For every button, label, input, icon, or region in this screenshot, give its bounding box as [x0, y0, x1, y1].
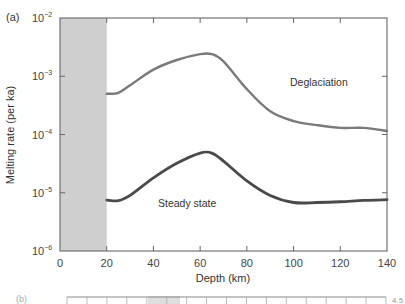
crust-shade	[60, 18, 107, 251]
x-axis: 020406080100120140	[57, 18, 396, 269]
y-tick-label: 10−5	[32, 186, 52, 199]
steady-state-label: Steady state	[158, 197, 217, 209]
panel-b-ticks	[67, 297, 386, 304]
x-tick-label: 0	[57, 257, 63, 269]
y-tick-label: 10−6	[32, 244, 52, 257]
x-tick-label: 120	[331, 257, 349, 269]
panel-label: (a)	[6, 11, 19, 23]
x-tick-label: 100	[284, 257, 302, 269]
x-axis-title: Depth (km)	[196, 272, 250, 284]
shaded-region	[60, 18, 107, 251]
series-deglaciation	[107, 53, 387, 131]
y-tick-label: 10−4	[32, 128, 52, 141]
panel-b-right-label: 4.5	[392, 296, 404, 304]
x-tick-label: 20	[101, 257, 113, 269]
panel-b-strip: (b) 4.5	[16, 294, 404, 304]
y-axis-title: Melting rate (per ka)	[4, 86, 16, 184]
y-tick-label: 10−3	[32, 69, 52, 82]
x-tick-label: 40	[147, 257, 159, 269]
x-tick-label: 60	[194, 257, 206, 269]
series-steady-state	[107, 152, 387, 203]
plot-frame	[60, 18, 387, 251]
x-tick-label: 140	[378, 257, 396, 269]
y-tick-label: 10−2	[32, 11, 52, 24]
panel-b-label: (b)	[16, 294, 27, 304]
melting-rate-chart: 020406080100120140 10−610−510−410−310−2 …	[0, 0, 405, 304]
x-tick-label: 80	[241, 257, 253, 269]
deglaciation-label: Deglaciation	[290, 76, 348, 88]
